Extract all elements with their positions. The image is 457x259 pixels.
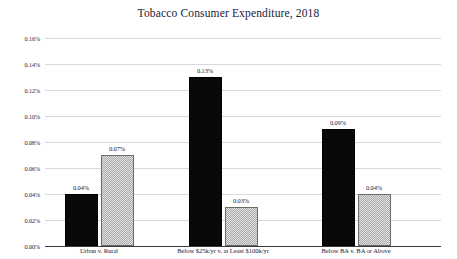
bar bbox=[322, 129, 355, 246]
gridline bbox=[45, 116, 441, 117]
bar-value-label: 0.07% bbox=[109, 145, 125, 152]
y-axis-tick-label: 0.14% bbox=[0, 61, 40, 68]
y-axis-tick-label: 0.08% bbox=[0, 139, 40, 146]
gridline bbox=[45, 90, 441, 91]
plot-area: 0.04%0.07%0.13%0.03%0.09%0.04% bbox=[45, 38, 441, 246]
chart-title: Tobacco Consumer Expenditure, 2018 bbox=[0, 7, 457, 19]
gridline bbox=[45, 38, 441, 39]
x-axis-category-label: Urban v. Rural bbox=[80, 247, 118, 254]
bar-value-label: 0.04% bbox=[73, 184, 89, 191]
chart-container: Tobacco Consumer Expenditure, 2018 0.16%… bbox=[0, 0, 457, 259]
y-axis-tick-label: 0.10% bbox=[0, 113, 40, 120]
gridline bbox=[45, 142, 441, 143]
y-axis-tick-label: 0.12% bbox=[0, 87, 40, 94]
gridline bbox=[45, 64, 441, 65]
y-axis-tick-label: 0.06% bbox=[0, 165, 40, 172]
bar-value-label: 0.13% bbox=[197, 67, 213, 74]
y-axis-tick-label: 0.00% bbox=[0, 243, 40, 250]
x-axis-category-label: Below BA v. BA or Above bbox=[321, 247, 390, 254]
y-axis-tick-label: 0.16% bbox=[0, 35, 40, 42]
y-axis-tick-label: 0.02% bbox=[0, 217, 40, 224]
bar-value-label: 0.03% bbox=[233, 197, 249, 204]
bar bbox=[225, 207, 258, 246]
bar bbox=[358, 194, 391, 246]
bar bbox=[189, 77, 222, 246]
bar bbox=[101, 155, 134, 246]
bar bbox=[65, 194, 98, 246]
bar-value-label: 0.09% bbox=[330, 119, 346, 126]
y-axis-tick-label: 0.04% bbox=[0, 191, 40, 198]
bar-value-label: 0.04% bbox=[366, 184, 382, 191]
x-axis-category-label: Below $25k/yr v. at Least $100k/yr bbox=[177, 247, 269, 254]
